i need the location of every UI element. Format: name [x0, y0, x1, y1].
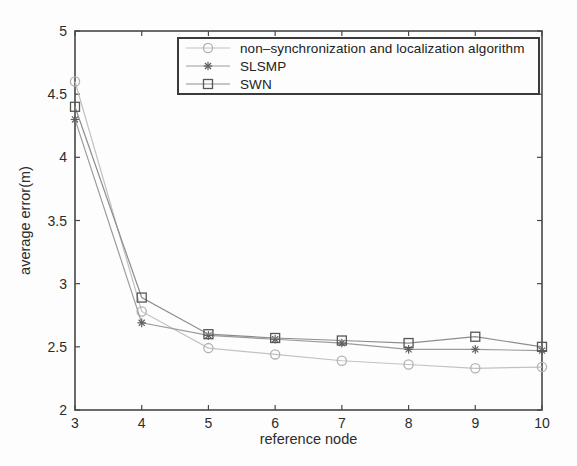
chart-legend: non–synchronization and localization alg…	[177, 37, 540, 95]
marker-asterisk	[204, 62, 213, 71]
legend-item-slsmp: SLSMP	[185, 57, 538, 75]
y-tick-label: 3.5	[48, 213, 68, 229]
x-tick-label: 9	[471, 415, 479, 431]
marker-asterisk	[404, 345, 413, 354]
x-tick-label: 7	[338, 415, 346, 431]
legend-item-swn: SWN	[185, 75, 538, 93]
x-tick-label: 10	[534, 415, 550, 431]
y-axis-label: average error(m)	[17, 166, 33, 275]
x-axis-label: reference node	[260, 431, 358, 447]
x-tick-label: 3	[71, 415, 79, 431]
y-tick-label: 5	[59, 23, 67, 39]
series-line	[75, 82, 542, 369]
y-tick-label: 2.5	[48, 339, 68, 355]
x-tick-label: 8	[405, 415, 413, 431]
x-tick-label: 5	[205, 415, 213, 431]
series-line	[75, 119, 542, 350]
y-tick-label: 4.5	[48, 86, 68, 102]
marker-asterisk	[471, 345, 480, 354]
series-2	[71, 102, 547, 351]
y-tick-label: 2	[59, 402, 67, 418]
legend-label: SLSMP	[240, 59, 286, 74]
y-tick-label: 3	[59, 276, 67, 292]
legend-marker-square-icon	[185, 77, 231, 91]
y-tick-label: 4	[59, 149, 67, 165]
x-tick-label: 4	[138, 415, 146, 431]
x-tick-label: 6	[271, 415, 279, 431]
series-0	[70, 77, 546, 373]
series-1	[71, 115, 547, 355]
marker-asterisk	[538, 346, 547, 355]
legend-item-non-synchronization: non–synchronization and localization alg…	[185, 39, 538, 57]
legend-label: SWN	[240, 77, 272, 92]
legend-marker-circle-icon	[185, 41, 231, 55]
legend-label: non–synchronization and localization alg…	[240, 41, 525, 56]
legend-marker-asterisk-icon	[185, 59, 231, 73]
series-line	[75, 107, 542, 347]
chart: 34567891022.533.544.55reference nodeaver…	[0, 0, 577, 466]
marker-asterisk	[137, 319, 146, 328]
